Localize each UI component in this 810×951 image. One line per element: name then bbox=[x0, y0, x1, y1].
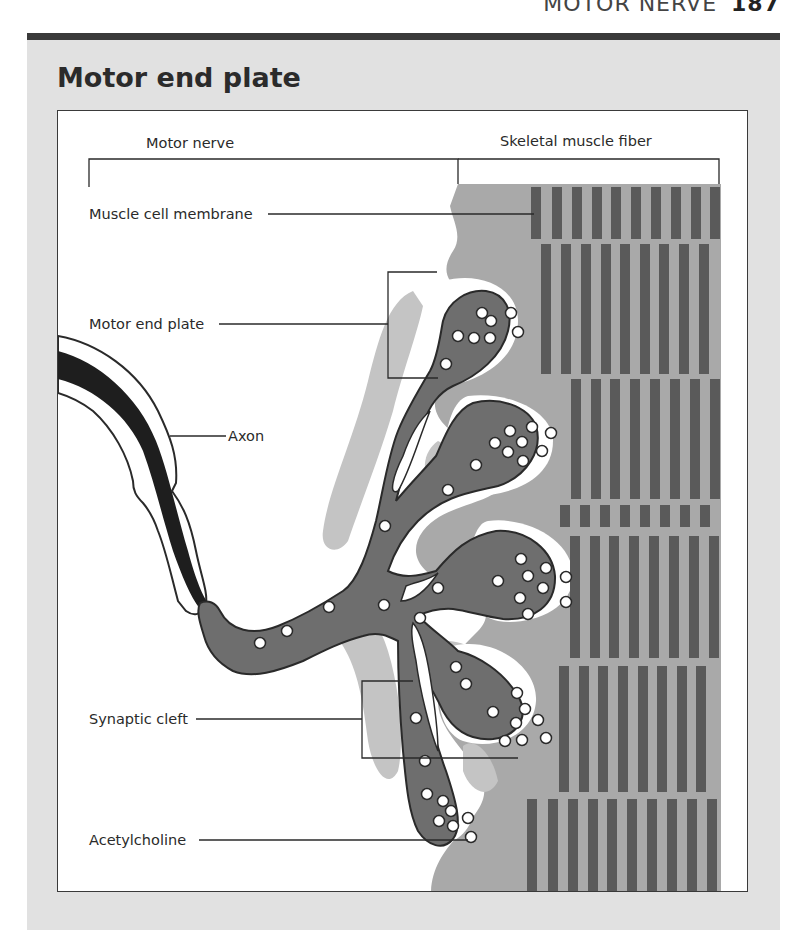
label-synaptic-cleft: Synaptic cleft bbox=[89, 712, 188, 727]
label-muscle-cell-membrane: Muscle cell membrane bbox=[89, 207, 253, 222]
label-motor-nerve: Motor nerve bbox=[146, 136, 234, 151]
page-number: 187 bbox=[731, 0, 780, 16]
page-title: Motor end plate bbox=[57, 62, 301, 93]
header-brackets bbox=[89, 159, 719, 187]
label-acetylcholine: Acetylcholine bbox=[89, 833, 186, 848]
running-head-section: MOTOR NERVE bbox=[543, 0, 717, 16]
motor-end-plate-diagram: Motor nerve Skeletal muscle fiber Muscle… bbox=[57, 110, 748, 892]
label-axon: Axon bbox=[228, 429, 264, 444]
label-skeletal-muscle-fiber: Skeletal muscle fiber bbox=[500, 134, 652, 149]
label-motor-end-plate: Motor end plate bbox=[89, 317, 204, 332]
running-head: MOTOR NERVE187 bbox=[543, 0, 780, 16]
top-rule-divider bbox=[27, 33, 780, 40]
diagram-illustration bbox=[58, 111, 748, 892]
